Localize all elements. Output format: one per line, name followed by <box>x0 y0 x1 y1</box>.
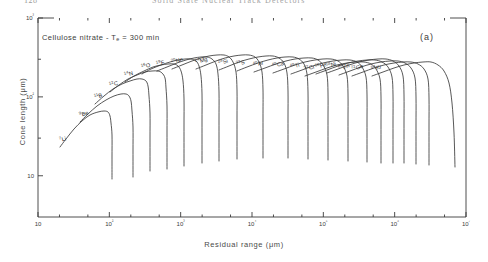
curve-12C <box>110 71 167 169</box>
figure-panel-a: 1010²10³10⁴10⁵10⁶10⁷1010²10³ 7Li9Be11B12… <box>0 11 488 262</box>
annotation-tail: = 300 min <box>120 33 160 42</box>
axes <box>38 18 466 217</box>
page-folio-number: 128 <box>24 0 38 5</box>
y-axis-title: Cone length (μm) <box>18 64 27 160</box>
curve-label-40Ca: 40Ca <box>271 58 285 69</box>
curve-64Zn <box>339 61 416 164</box>
curve-24Mg <box>196 55 263 158</box>
curve-9Be <box>80 94 133 177</box>
curve-19F <box>157 57 219 161</box>
curve-label-24Mg: 24Mg <box>194 54 208 65</box>
x-tick-label: 10⁴ <box>248 219 257 227</box>
curve-72Ge <box>352 62 429 165</box>
curve-14N <box>125 64 184 166</box>
curve-32S <box>237 57 308 159</box>
plot-annotation-etch-condition: Cellulose nitrate - Te = 300 min <box>42 33 160 42</box>
curve-7Li <box>60 111 112 179</box>
x-tick-label: 10⁶ <box>390 219 399 227</box>
running-head: Solid State Nuclear Track Detectors <box>152 0 306 5</box>
y-tick-label: 10² <box>26 92 35 100</box>
curve-16O <box>142 59 202 163</box>
panel-label: (a) <box>420 32 434 42</box>
annotation-text: Cellulose nitrate - T <box>42 33 116 42</box>
curve-label-11B: 11B <box>93 91 103 100</box>
curve-label-14N: 14N <box>123 68 133 77</box>
x-tick-label: 10⁵ <box>319 219 328 227</box>
curve-84Kr <box>372 62 455 167</box>
curve-label-84Kr: 84Kr <box>370 62 382 72</box>
x-tick-label: 10⁷ <box>462 219 471 227</box>
curve-11B <box>95 79 150 171</box>
x-axis-title: Residual range (μm) <box>0 240 488 249</box>
curve-20Ne <box>172 55 237 159</box>
curve-40Ar <box>254 58 328 160</box>
curve-48Ti <box>291 60 367 162</box>
curve-series-group <box>60 55 455 179</box>
curve-label-7Li: 7Li <box>58 134 66 143</box>
axis-ticks <box>38 18 466 217</box>
curve-52Cr <box>305 62 381 163</box>
cone-length-vs-residual-range-plot: 1010²10³10⁴10⁵10⁶10⁷1010²10³ 7Li9Be11B12… <box>0 11 488 262</box>
curve-label-32S: 32S <box>235 57 245 66</box>
y-tick-label: 10 <box>27 173 34 179</box>
curve-label-40Ar: 40Ar <box>252 58 264 68</box>
curve-label-20Ne: 20Ne <box>170 55 183 65</box>
curve-label-28Si: 28Si <box>217 56 228 66</box>
y-tick-label: 10³ <box>26 13 35 21</box>
x-tick-label: 10² <box>105 219 114 227</box>
curve-label-64Zn: 64Zn <box>337 61 350 71</box>
curve-label-48Ti: 48Ti <box>289 60 300 70</box>
x-tick-label: 10³ <box>177 219 186 227</box>
x-tick-label: 10 <box>35 221 42 227</box>
page-header: 128 Solid State Nuclear Track Detectors <box>0 0 488 11</box>
